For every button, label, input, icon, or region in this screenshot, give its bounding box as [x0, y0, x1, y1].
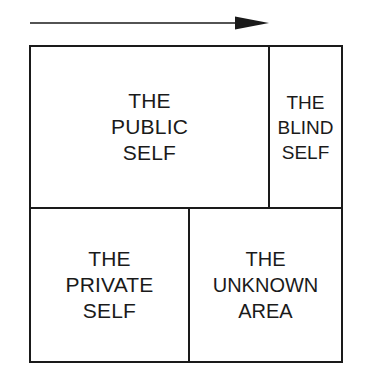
quadrant-row-bottom: THE PRIVATE SELF THE UNKNOWN AREA: [31, 207, 341, 361]
window-frame: THE PUBLIC SELF THE BLIND SELF THE PRIVA…: [29, 45, 343, 363]
quadrant-private-self-label: THE PRIVATE SELF: [63, 246, 155, 324]
quadrant-row-top: THE PUBLIC SELF THE BLIND SELF: [31, 47, 341, 207]
quadrant-unknown-area-label: THE UNKNOWN AREA: [211, 246, 321, 324]
quadrant-public-self-label: THE PUBLIC SELF: [109, 88, 190, 166]
quadrant-blind-self-label: THE BLIND SELF: [276, 90, 336, 165]
arrow-right-icon: [29, 12, 271, 34]
quadrant-unknown-area[interactable]: THE UNKNOWN AREA: [188, 209, 341, 361]
quadrant-blind-self[interactable]: THE BLIND SELF: [268, 47, 341, 207]
johari-window-diagram: THE PUBLIC SELF THE BLIND SELF THE PRIVA…: [0, 0, 366, 379]
quadrant-private-self[interactable]: THE PRIVATE SELF: [31, 209, 188, 361]
quadrant-public-self[interactable]: THE PUBLIC SELF: [31, 47, 268, 207]
